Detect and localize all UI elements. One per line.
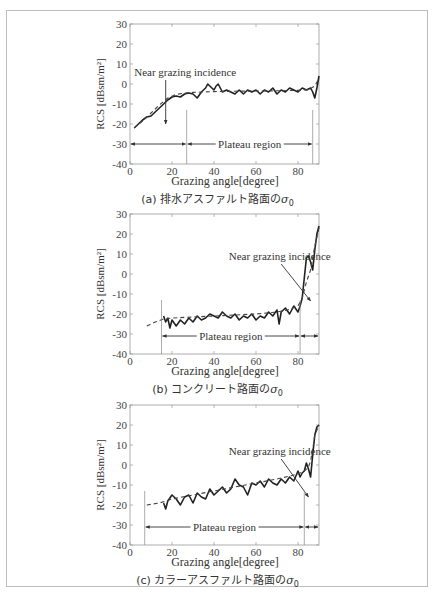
chart-panel-b: -40-30-20-100102030020406080RCS [dBsm/m²…	[94, 208, 331, 367]
y-tick-label: 30	[116, 208, 128, 220]
y-tick-label: -30	[112, 138, 127, 150]
y-tick-label: 10	[116, 248, 128, 260]
y-tick-label: 30	[116, 399, 128, 411]
annotation-near-grazing: Near grazing incidence	[229, 445, 331, 457]
caption-a: (a) 排水アスファルト路面のσ0	[0, 190, 435, 208]
y-tick-label: 0	[122, 459, 128, 471]
series-measured	[134, 76, 319, 128]
chart-panel-c: -40-30-20-100102030020406080RCS [dBsm/m²…	[94, 399, 331, 558]
caption-c-sub: 0	[294, 580, 299, 589]
annotation-plateau: Plateau region	[218, 138, 282, 150]
caption-b-symbol: σ	[270, 383, 278, 396]
series-measured	[164, 425, 319, 509]
y-tick-label: -20	[112, 308, 127, 320]
figure-charts: -40-30-20-100102030020406080RCS [dBsm/m²…	[0, 0, 435, 603]
caption-c-symbol: σ	[286, 574, 294, 587]
y-tick-label: 0	[122, 78, 128, 90]
y-tick-label: -40	[112, 158, 127, 170]
y-tick-label: 20	[116, 419, 128, 431]
y-tick-label: -10	[112, 288, 127, 300]
series-fit	[147, 425, 319, 505]
caption-a-text: (a) 排水アスファルト路面の	[141, 193, 281, 206]
y-tick-label: 20	[116, 38, 128, 50]
series-measured	[164, 226, 319, 328]
y-tick-label: -20	[112, 118, 127, 130]
y-tick-label: 30	[116, 18, 128, 30]
caption-b-sub: 0	[278, 389, 283, 398]
y-axis-label: RCS [dBsm/m²]	[94, 439, 106, 510]
y-tick-label: 10	[116, 58, 128, 70]
xlabel-a: Grazing angle[degree]	[130, 174, 320, 189]
y-tick-label: -40	[112, 539, 127, 551]
annotation-plateau: Plateau region	[199, 330, 263, 342]
chart-panel-a: -40-30-20-100102030020406080RCS [dBsm/m²…	[94, 18, 319, 177]
y-tick-label: -10	[112, 98, 127, 110]
y-tick-label: -40	[112, 348, 127, 360]
y-tick-label: 20	[116, 228, 128, 240]
caption-a-symbol: σ	[281, 193, 289, 206]
y-tick-label: 10	[116, 439, 128, 451]
annotation-near-grazing: Near grazing incidence	[134, 66, 236, 78]
caption-a-sub: 0	[289, 199, 294, 208]
xlabel-c: Grazing angle[degree]	[130, 555, 320, 570]
caption-b: (b) コンクリート路面のσ0	[0, 380, 435, 398]
series-fit	[147, 228, 319, 326]
y-tick-label: -20	[112, 499, 127, 511]
y-tick-label: -10	[112, 479, 127, 491]
y-tick-label: 0	[122, 268, 128, 280]
y-axis-label: RCS [dBsm/m²]	[94, 248, 106, 319]
annotation-near-grazing: Near grazing incidence	[229, 250, 331, 262]
caption-c: (c) カラーアスファルト路面のσ0	[0, 571, 435, 589]
y-axis-label: RCS [dBsm/m²]	[94, 58, 106, 129]
xlabel-b: Grazing angle[degree]	[130, 364, 320, 379]
annotation-plateau: Plateau region	[193, 521, 257, 533]
caption-c-text: (c) カラーアスファルト路面の	[136, 574, 286, 587]
y-tick-label: -30	[112, 328, 127, 340]
caption-b-text: (b) コンクリート路面の	[152, 383, 270, 396]
y-tick-label: -30	[112, 519, 127, 531]
series-fit	[134, 78, 319, 128]
